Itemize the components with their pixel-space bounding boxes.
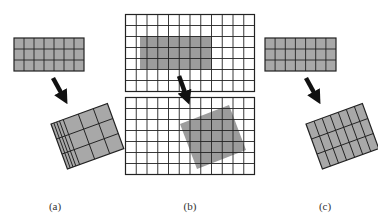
- panel-b: [126, 15, 255, 175]
- panel-a-rotated-grid: [51, 103, 124, 169]
- figure-canvas: [0, 0, 378, 220]
- panel-b-top-grid: [126, 15, 255, 92]
- panel-c: [265, 38, 378, 169]
- panel-b-label: (b): [175, 200, 205, 212]
- arrow-icon: [53, 78, 64, 98]
- panel-a: [14, 38, 124, 169]
- panel-b-bottom-grid: [126, 98, 255, 175]
- panel-a-label: (a): [40, 200, 70, 212]
- panel-a-source-grid: [14, 38, 84, 71]
- panel-c-source-grid: [265, 38, 336, 71]
- panel-c-rotated-grid: [306, 103, 378, 169]
- arrow-icon: [306, 78, 317, 98]
- panel-c-label: (c): [310, 200, 340, 212]
- arrow-icon: [179, 76, 187, 98]
